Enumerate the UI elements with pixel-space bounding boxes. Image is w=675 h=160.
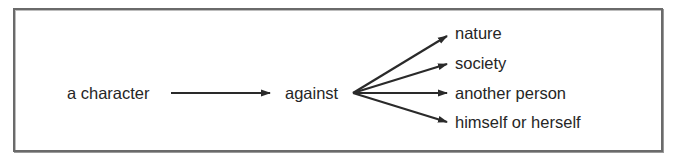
fan-arrow-society-icon xyxy=(353,64,447,93)
target-label-society: society xyxy=(455,53,506,73)
target-label-nature: nature xyxy=(455,23,502,43)
arrows-layer xyxy=(0,0,675,160)
source-label: a character xyxy=(67,83,150,103)
target-label-himself-or-herself: himself or herself xyxy=(455,112,581,132)
fan-arrow-nature-icon xyxy=(353,36,447,93)
connector-label: against xyxy=(285,83,338,103)
target-label-another-person: another person xyxy=(455,83,566,103)
fan-arrow-himself-or-herself-icon xyxy=(353,93,447,122)
